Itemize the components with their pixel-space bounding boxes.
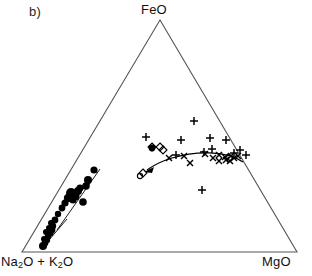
data-point-filled-circle (84, 176, 92, 184)
data-point-plus (190, 117, 198, 125)
data-point-plus (208, 145, 216, 153)
main-trend-line (57, 169, 100, 230)
data-point-plus (177, 136, 185, 144)
ternary-triangle-outline (22, 20, 297, 252)
afm-ternary-figure (0, 0, 312, 276)
ternary-plot-svg (0, 0, 312, 276)
data-point-plus (142, 133, 150, 141)
vertex-label-mgo: MgO (262, 254, 291, 269)
data-point-plus (206, 134, 214, 142)
data-point-cross (210, 155, 216, 161)
data-point-cross (187, 160, 193, 166)
alkali-label-mid: O + K (23, 254, 58, 269)
alkali-label-post: O (63, 254, 73, 269)
data-point-filled-circle (90, 166, 97, 173)
data-point-filled-circle (79, 198, 87, 206)
apex-label-feo: FeO (141, 2, 167, 17)
series-plus-markers (142, 117, 250, 194)
data-point-cross (216, 158, 222, 164)
data-point-plus (242, 151, 250, 159)
data-point-plus (198, 186, 206, 194)
data-point-filled-circle (52, 217, 59, 224)
panel-label: b) (29, 4, 41, 19)
data-point-open-diamond (159, 146, 167, 154)
series-filled-circles (39, 145, 155, 250)
alkali-label-pre: Na (1, 254, 18, 269)
data-point-cross (216, 152, 222, 158)
series-cross-markers (166, 151, 241, 166)
data-point-open-diamond (156, 143, 164, 151)
data-point-filled-circle (55, 211, 61, 217)
vertex-label-alkali: Na2O + K2O (1, 254, 73, 270)
